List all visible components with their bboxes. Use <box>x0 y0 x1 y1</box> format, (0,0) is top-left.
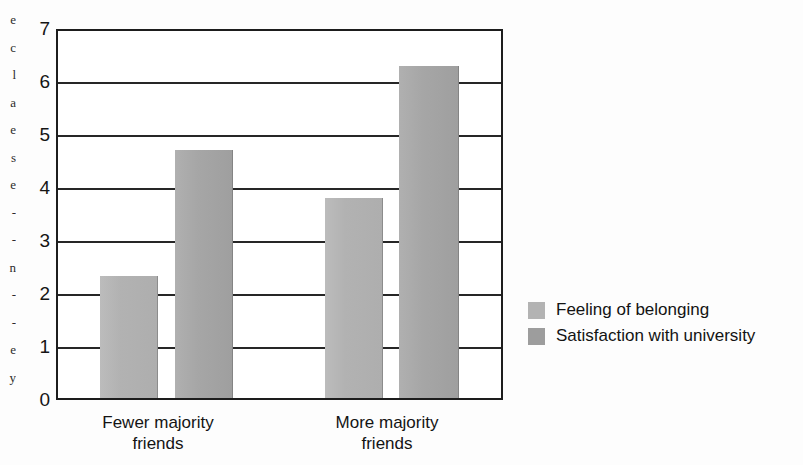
legend-item-satisfaction-with-university: Satisfaction with university <box>528 323 793 349</box>
y-tick-6: 6 <box>20 72 50 91</box>
x-category-more-line1: More majority <box>317 412 457 433</box>
y-tick-1: 1 <box>20 337 50 356</box>
y-tick-7: 7 <box>20 19 50 38</box>
chart-legend: Feeling of belonging Satisfaction with u… <box>528 297 793 349</box>
legend-label-satisfaction: Satisfaction with university <box>556 326 755 346</box>
y-tick-3: 3 <box>20 231 50 250</box>
legend-label-belonging: Feeling of belonging <box>556 300 709 320</box>
y-tick-5: 5 <box>20 125 50 144</box>
x-category-fewer-line1: Fewer majority <box>88 412 228 433</box>
plot-area <box>56 29 503 400</box>
bar-fewer-satisfaction <box>175 150 233 398</box>
x-category-fewer-line2: friends <box>88 433 228 454</box>
bar-more-satisfaction <box>399 66 459 398</box>
legend-item-feeling-of-belonging: Feeling of belonging <box>528 297 793 323</box>
y-axis-tick-labels: 7 6 5 4 3 2 1 0 <box>12 0 50 465</box>
bar-fewer-belonging <box>100 276 158 398</box>
y-tick-4: 4 <box>20 178 50 197</box>
x-category-fewer-majority-friends: Fewer majority friends <box>88 412 228 454</box>
x-category-more-majority-friends: More majority friends <box>317 412 457 454</box>
bar-chart-figure: 7 6 5 4 3 2 1 0 Fewer majority friends M… <box>0 0 803 465</box>
bar-more-belonging <box>325 198 383 398</box>
x-category-more-line2: friends <box>317 433 457 454</box>
y-tick-2: 2 <box>20 284 50 303</box>
legend-swatch-icon-satisfaction <box>528 328 545 345</box>
y-tick-0: 0 <box>20 390 50 409</box>
legend-swatch-icon-belonging <box>528 302 545 319</box>
